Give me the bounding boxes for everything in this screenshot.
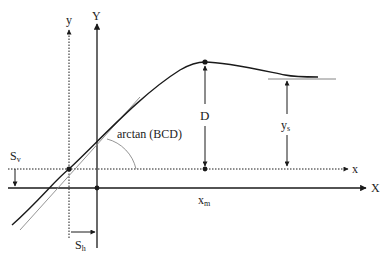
slope-label: arctan (BCD)	[117, 127, 182, 141]
peak-label: D	[200, 108, 209, 123]
peak-point	[202, 59, 207, 64]
shifted-y-label: y	[66, 13, 72, 27]
characteristic-curve	[12, 62, 318, 225]
shifted-x-label: x	[352, 162, 358, 176]
main-origin-point	[95, 186, 100, 191]
peak-x-point	[203, 167, 208, 172]
main-y-label: Y	[92, 9, 101, 23]
offset-origin-point	[66, 166, 71, 171]
main-x-label: X	[371, 181, 380, 195]
magic-formula-diagram: y Y x X D arctan (BCD) ys xm Sv Sh	[0, 0, 389, 261]
peak-x-label: xm	[198, 193, 211, 208]
vertical-shift-label: Sv	[10, 149, 21, 164]
asymptote-label: ys	[281, 118, 290, 133]
horizontal-shift-label: Sh	[75, 238, 86, 253]
slope-angle-arc	[107, 139, 136, 169]
